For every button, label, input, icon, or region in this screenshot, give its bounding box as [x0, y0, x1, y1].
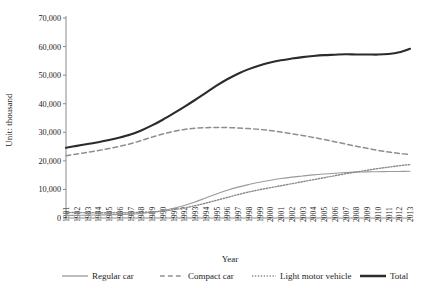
- series-line-light-motor-vehicle: [66, 165, 410, 213]
- series-line-total: [66, 49, 410, 148]
- legend-label-regular-car: Regular car: [92, 271, 134, 281]
- y-tick-label: 10,000: [38, 185, 61, 194]
- legend-label-compact-car: Compact car: [188, 271, 234, 281]
- y-tick-label: 60,000: [38, 43, 61, 52]
- y-tick-label: 40,000: [38, 100, 61, 109]
- y-tick-label: 20,000: [38, 157, 61, 166]
- series-group: [66, 49, 410, 216]
- legend: Regular carCompact carLight motor vehicl…: [62, 271, 409, 281]
- chart-canvas: 010,00020,00030,00040,00050,00060,00070,…: [0, 0, 422, 288]
- legend-label-total: Total: [390, 271, 409, 281]
- y-tick-label: 0: [57, 214, 61, 223]
- y-axis-title: Unit: thousand: [4, 93, 14, 147]
- y-tick-label: 70,000: [38, 14, 61, 23]
- x-axis-title: Year: [222, 254, 239, 264]
- series-line-compact-car: [66, 127, 410, 155]
- line-chart: 010,00020,00030,00040,00050,00060,00070,…: [0, 0, 422, 288]
- legend-label-light-motor-vehicle: Light motor vehicle: [280, 271, 351, 281]
- y-tick-label: 30,000: [38, 128, 61, 137]
- y-axis-tick-labels: 010,00020,00030,00040,00050,00060,00070,…: [38, 14, 66, 223]
- y-tick-label: 50,000: [38, 71, 61, 80]
